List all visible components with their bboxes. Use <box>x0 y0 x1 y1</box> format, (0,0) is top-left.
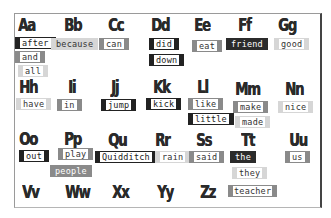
letter-heading-n: Nn <box>285 80 303 98</box>
letter-heading-c: Cc <box>108 16 123 34</box>
word-card-down: down <box>149 54 184 66</box>
word-label: down <box>154 55 179 65</box>
word-card-little: little <box>188 113 234 125</box>
letter-heading-k: Kk <box>153 78 170 96</box>
letter-heading-p: Pp <box>64 130 81 148</box>
word-label: eat <box>197 41 217 51</box>
word-card-nice: nice <box>278 101 313 113</box>
word-card-us: us <box>285 151 310 163</box>
word-label: said <box>194 152 219 162</box>
letter-heading-x: Xx <box>112 183 128 201</box>
letter-heading-d: Dd <box>151 16 169 34</box>
letter-heading-r: Rr <box>155 131 169 149</box>
word-label: and <box>20 52 40 62</box>
word-label: teacher <box>233 186 272 196</box>
word-card-like: like <box>188 98 223 110</box>
word-card-have: have <box>16 98 51 110</box>
word-label: after <box>20 38 51 48</box>
letter-heading-w: Ww <box>65 183 90 201</box>
word-label: Quidditch <box>100 152 152 162</box>
word-card-all: all <box>18 65 48 77</box>
letter-heading-e: Ee <box>194 16 210 34</box>
letter-heading-g: Gg <box>278 16 296 34</box>
letter-heading-o: Oo <box>19 130 37 148</box>
word-label: good <box>279 39 304 49</box>
word-card-after: after <box>15 37 56 49</box>
word-card-made: made <box>235 116 270 128</box>
word-label: like <box>193 99 218 109</box>
word-card-in: in <box>57 99 82 111</box>
letter-heading-j: Jj <box>111 78 118 96</box>
word-label: they <box>237 168 262 178</box>
word-card-rain: rain <box>155 151 190 163</box>
word-label: little <box>193 114 229 124</box>
letter-heading-z: Zz <box>200 183 215 201</box>
letter-heading-y: Yy <box>157 183 173 201</box>
word-card-they: they <box>232 167 267 179</box>
word-card-friend: friend <box>226 38 268 50</box>
word-label: jump <box>106 100 131 110</box>
word-card-quidditch: Quidditch <box>95 151 157 163</box>
word-card-people: people <box>50 165 92 177</box>
letter-heading-s: Ss <box>196 131 211 149</box>
letter-heading-u: Uu <box>289 131 307 149</box>
word-label: nice <box>283 102 308 112</box>
word-label: out <box>24 151 44 161</box>
word-card-did: did <box>149 38 179 50</box>
word-label: make <box>238 102 263 112</box>
letter-heading-t: Tt <box>241 131 254 149</box>
letter-heading-a: Aa <box>18 16 35 34</box>
word-label: have <box>21 99 46 109</box>
letter-heading-l: Ll <box>197 78 208 96</box>
letter-heading-qu: Qu <box>108 131 126 149</box>
word-card-the: the <box>230 151 256 163</box>
word-label: kick <box>151 99 176 109</box>
letter-heading-h: Hh <box>19 78 37 96</box>
word-label: did <box>154 39 174 49</box>
word-card-play: play <box>58 148 93 160</box>
word-label: made <box>240 117 265 127</box>
word-label: rain <box>160 152 185 162</box>
word-card-kick: kick <box>146 98 181 110</box>
word-label: can <box>104 39 124 49</box>
word-card-teacher: teacher <box>228 185 277 197</box>
word-card-jump: jump <box>101 99 136 111</box>
letter-heading-f: Ff <box>238 16 250 34</box>
word-card-out: out <box>19 150 49 162</box>
word-card-make: make <box>233 101 268 113</box>
word-card-said: said <box>189 151 224 163</box>
word-card-and: and <box>15 51 45 63</box>
letter-heading-m: Mm <box>235 80 260 98</box>
word-label: play <box>63 149 88 159</box>
word-label: in <box>62 100 77 110</box>
letter-heading-i: Ii <box>68 78 75 96</box>
word-label: all <box>23 66 43 76</box>
word-card-eat: eat <box>192 40 222 52</box>
word-label: us <box>290 152 305 162</box>
word-card-because: because <box>51 38 98 50</box>
letter-heading-b: Bb <box>64 16 81 34</box>
letter-heading-v: Vv <box>22 183 39 201</box>
word-card-can: can <box>99 38 129 50</box>
word-card-good: good <box>274 38 309 50</box>
